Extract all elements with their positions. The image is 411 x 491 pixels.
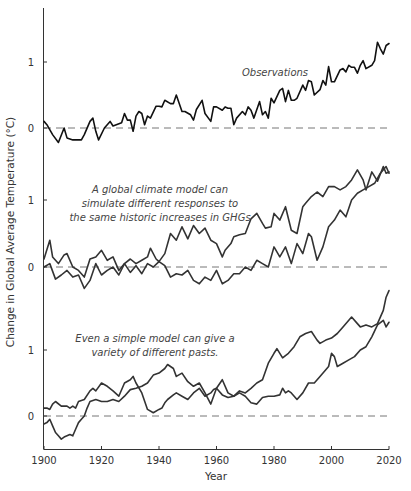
annotation-global-climate-model: the same historic increases in GHGs xyxy=(69,212,250,223)
x-tick-label: 2000 xyxy=(319,455,344,466)
annotation-observations: Observations xyxy=(242,67,308,78)
y-tick-label: 0 xyxy=(28,123,34,134)
annotations: ObservationsA global climate model cansi… xyxy=(69,67,308,358)
series-line-observations-0 xyxy=(44,42,389,142)
x-tick-label: 1900 xyxy=(31,455,56,466)
y-axis-title: Change in Global Average Temperature (°C… xyxy=(4,117,16,347)
y-tick-label: 0 xyxy=(28,411,34,422)
x-tick-label: 1920 xyxy=(89,455,114,466)
annotation-global-climate-model: simulate different responses to xyxy=(82,198,239,209)
x-tick-label: 1960 xyxy=(204,455,229,466)
temperature-chart: 010101 1900192019401960198020002020 Obse… xyxy=(0,0,411,491)
y-tick-label: 0 xyxy=(28,262,34,273)
x-tick-label: 1980 xyxy=(261,455,286,466)
y-ticks: 010101 xyxy=(28,57,47,422)
x-tick-label: 2020 xyxy=(376,455,401,466)
annotation-simple-model: Even a simple model can give a xyxy=(75,333,234,344)
y-tick-label: 1 xyxy=(28,57,34,68)
x-axis-title: Year xyxy=(204,470,228,482)
y-tick-label: 1 xyxy=(28,195,34,206)
annotation-simple-model: variety of different pasts. xyxy=(91,347,218,358)
x-tick-label: 1940 xyxy=(146,455,171,466)
series-lines xyxy=(44,42,389,439)
y-tick-label: 1 xyxy=(28,345,34,356)
annotation-global-climate-model: A global climate model can xyxy=(91,184,228,195)
